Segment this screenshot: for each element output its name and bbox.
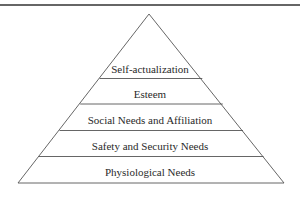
level-label-esteem: Esteem <box>0 88 300 101</box>
level-label-self-actualization: Self-actualization <box>0 63 300 76</box>
pyramid-diagram: Self-actualization Esteem Social Needs a… <box>0 0 300 197</box>
level-label-social-needs: Social Needs and Affiliation <box>0 114 300 127</box>
level-label-physiological-needs: Physiological Needs <box>0 166 300 179</box>
level-label-safety-needs: Safety and Security Needs <box>0 140 300 153</box>
